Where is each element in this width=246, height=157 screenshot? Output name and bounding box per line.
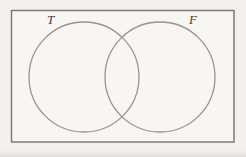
set-label-left: T <box>47 12 55 27</box>
venn-diagram: T F <box>0 0 246 157</box>
venn-diagram-canvas: T F <box>0 0 246 157</box>
universe-rectangle <box>12 11 235 143</box>
set-label-right: F <box>188 12 198 27</box>
